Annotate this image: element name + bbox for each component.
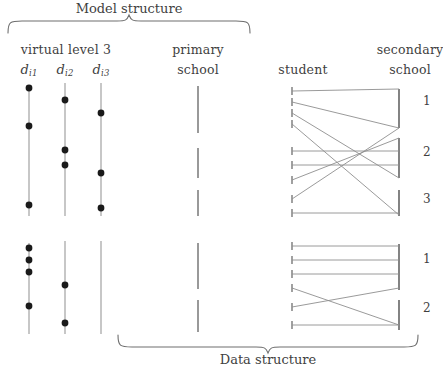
secondary-school-label-3: 3 [423, 192, 431, 206]
dot-group-lower [26, 245, 69, 327]
top-brace-label: Model structure [76, 1, 183, 16]
link-group-lower [292, 246, 399, 325]
level3-dot [26, 269, 33, 276]
column-header-d-i2: di2 [56, 62, 73, 77]
secondary-school-label-lower-2: 2 [423, 301, 431, 315]
link [292, 128, 399, 199]
level3-dot [62, 282, 69, 289]
link [292, 138, 399, 180]
level3-dot [26, 257, 33, 264]
level3-dot [98, 170, 105, 177]
secondary-school-label-lower-1: 1 [423, 252, 431, 266]
column-header-d-i3: di3 [92, 62, 109, 77]
level3-dot [26, 202, 33, 209]
link [292, 288, 399, 307]
student-header: student [278, 62, 327, 77]
level3-dot [62, 162, 69, 169]
link [292, 89, 399, 91]
level3-dot [26, 85, 33, 92]
level3-dot [62, 320, 69, 327]
link [292, 102, 399, 128]
virtual-level-header: virtual level 3 [21, 42, 111, 57]
link [292, 113, 399, 178]
level3-dot [98, 205, 105, 212]
level3-dot [26, 245, 33, 252]
bottom-brace-label: Data structure [220, 352, 317, 367]
level3-dot [26, 123, 33, 130]
link-group-upper [292, 89, 399, 215]
link [292, 288, 399, 325]
secondary-school-label-2: 2 [423, 145, 431, 159]
secondary-school-header-line2: school [389, 62, 431, 77]
link [292, 124, 399, 215]
bottom-brace [118, 335, 418, 353]
figure-canvas: Model structure Data structure virtual l… [0, 0, 443, 372]
primary-school-header-line2: school [177, 62, 219, 77]
level3-dot [62, 97, 69, 104]
upper-group [26, 83, 399, 217]
top-brace [8, 15, 250, 33]
primary-school-header-line1: primary [172, 42, 224, 57]
lower-group [26, 241, 399, 334]
level3-dot [26, 303, 33, 310]
level3-dot [62, 147, 69, 154]
level3-dot [98, 110, 105, 117]
secondary-school-label-1: 1 [423, 94, 431, 108]
column-header-d-i1: di1 [20, 62, 37, 77]
secondary-school-header-line1: secondary [377, 42, 443, 57]
